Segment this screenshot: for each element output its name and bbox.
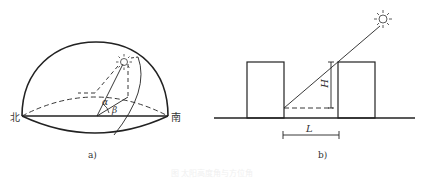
figure: 北 南 α β a) H L b) 图 太阳高度角与方位角 [0, 0, 424, 178]
figure-b-sublabel: b) [318, 150, 327, 160]
buildings [214, 26, 415, 139]
figure-a-sublabel: a) [88, 150, 97, 160]
altitude-angle-label: α [102, 97, 108, 107]
sun-icon-a [116, 54, 132, 70]
sun-icon-b [374, 10, 392, 28]
north-label: 北 [10, 109, 20, 124]
length-label: L [306, 123, 313, 134]
azimuth-angle-label: β [112, 105, 117, 115]
south-label: 南 [171, 109, 181, 124]
diagram-drawing [0, 0, 424, 178]
figure-caption: 图 太阳高度角与方位角 [0, 167, 424, 178]
sky-dome [22, 42, 168, 135]
height-label: H [319, 79, 330, 88]
